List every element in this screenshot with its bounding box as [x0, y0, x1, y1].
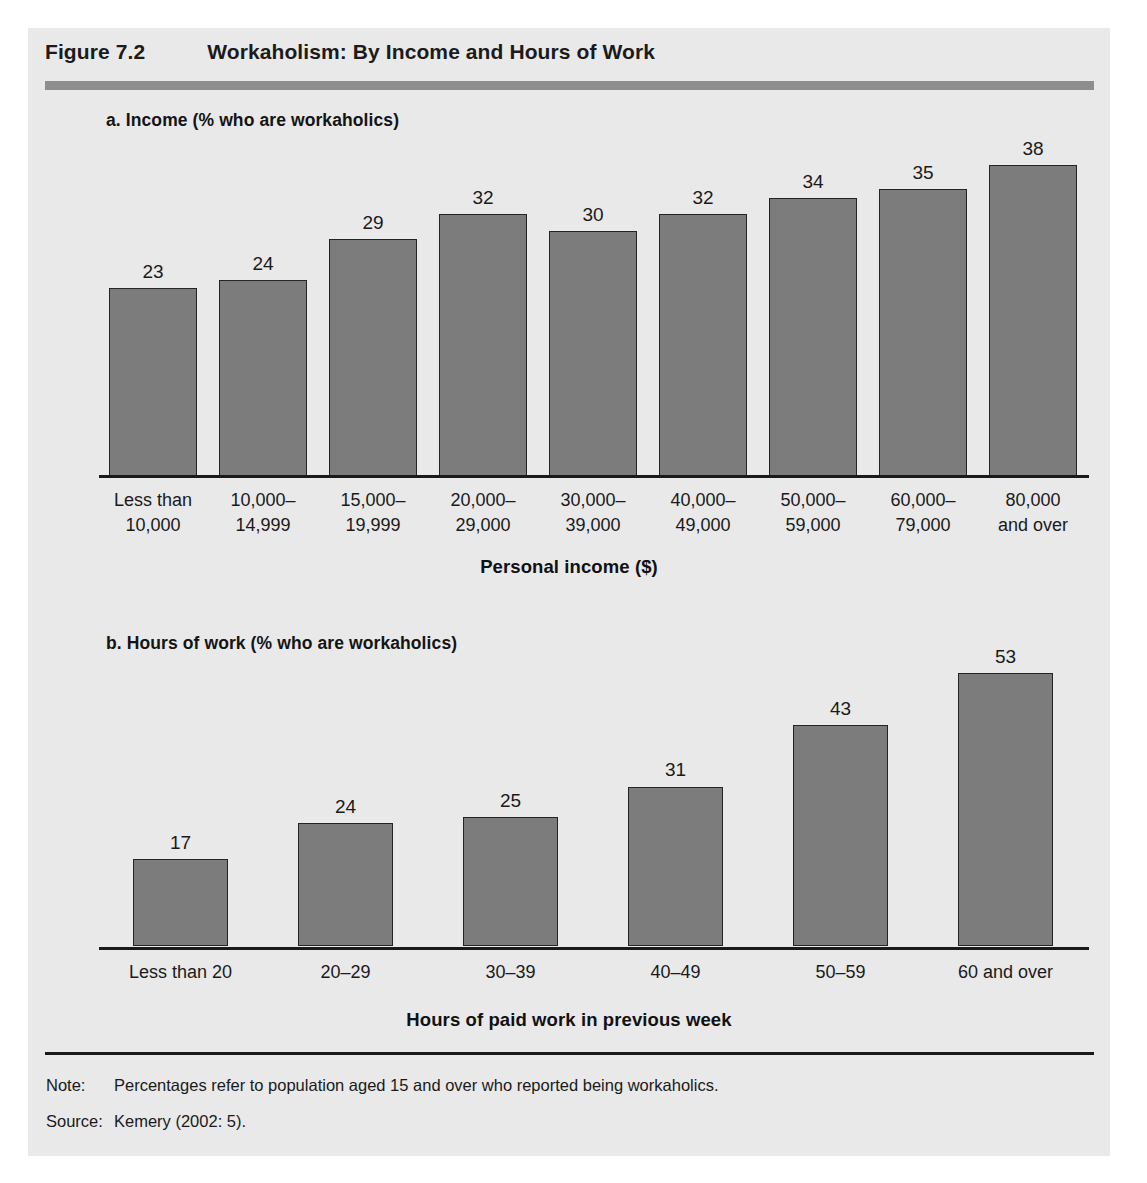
panel-b-subtitle: b. Hours of work (% who are workaholics): [106, 633, 457, 654]
bar: [769, 198, 857, 479]
note-row: Note:Percentages refer to population age…: [46, 1076, 718, 1095]
bar-value-label: 30: [549, 204, 637, 226]
footer-rule: [45, 1052, 1094, 1055]
bar-value-label: 38: [989, 138, 1077, 160]
bar-value-label: 32: [659, 187, 747, 209]
bar-value-label: 25: [463, 790, 559, 812]
bar-value-label: 29: [329, 212, 417, 234]
bar: [549, 231, 637, 479]
bar: [659, 214, 747, 478]
note-text: Percentages refer to population aged 15 …: [114, 1076, 718, 1094]
x-tick-label: 80,000and over: [960, 488, 1106, 538]
bar: [109, 288, 197, 478]
bar-value-label: 32: [439, 187, 527, 209]
bar: [463, 817, 559, 946]
source-row: Source:Kemery (2002: 5).: [46, 1112, 246, 1131]
panel-income: a. Income (% who are workaholics) 232429…: [28, 28, 1110, 588]
plot-area-hours: 172425314353: [98, 663, 1088, 946]
panel-a-axis-title: Personal income ($): [28, 556, 1110, 578]
bar-value-label: 17: [133, 832, 229, 854]
x-axis-line-hours: [99, 947, 1089, 950]
x-tick-label: 60 and over: [905, 960, 1106, 985]
bar: [439, 214, 527, 478]
bar: [133, 859, 229, 946]
panel-a-subtitle: a. Income (% who are workaholics): [106, 110, 399, 131]
bar: [958, 673, 1054, 946]
bar-value-label: 23: [109, 261, 197, 283]
plot-area-income: 232429323032343538: [98, 148, 1088, 478]
bar-value-label: 34: [769, 171, 857, 193]
bar: [329, 239, 417, 478]
bar-value-label: 35: [879, 162, 967, 184]
panel-b-axis-title: Hours of paid work in previous week: [28, 1009, 1110, 1031]
panel-hours: b. Hours of work (% who are workaholics)…: [28, 588, 1110, 1052]
bar: [298, 823, 394, 946]
x-axis-line-income: [99, 475, 1089, 478]
bar-value-label: 24: [219, 253, 307, 275]
source-text: Kemery (2002: 5).: [114, 1112, 246, 1130]
bar: [989, 165, 1077, 479]
figure-container: Figure 7.2 Workaholism: By Income and Ho…: [28, 28, 1110, 1156]
bar-value-label: 24: [298, 796, 394, 818]
bar-value-label: 31: [628, 759, 724, 781]
bar: [793, 725, 889, 946]
bar-value-label: 43: [793, 698, 889, 720]
source-label: Source:: [46, 1112, 114, 1131]
note-label: Note:: [46, 1076, 114, 1095]
bar: [219, 280, 307, 478]
bar: [628, 787, 724, 947]
bar: [879, 189, 967, 478]
bar-value-label: 53: [958, 646, 1054, 668]
